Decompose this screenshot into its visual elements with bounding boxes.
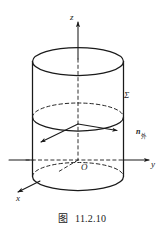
surface-sigma-label: Σ <box>124 91 129 100</box>
outward-normal-label: n外 <box>136 128 146 138</box>
z-axis-label: z <box>70 13 74 22</box>
y-axis-label: y <box>151 160 155 169</box>
caption-number: 11.2.10 <box>75 213 106 224</box>
figure-caption: 图11.2.10 <box>0 210 164 225</box>
cylinder-diagram-svg <box>0 0 164 233</box>
normal-label-base: n <box>136 127 140 136</box>
caption-prefix: 图 <box>58 213 68 224</box>
figure-container: z y x O Σ n外 图11.2.10 <box>0 0 164 233</box>
normal-label-subscript: 外 <box>141 133 147 139</box>
x-axis-hidden-segment <box>58 160 78 172</box>
bottom-rim-front-solid <box>33 177 124 191</box>
origin-label: O <box>81 163 88 172</box>
bottom-rim-back-dashed <box>33 163 124 177</box>
x-axis-label: x <box>16 194 20 203</box>
